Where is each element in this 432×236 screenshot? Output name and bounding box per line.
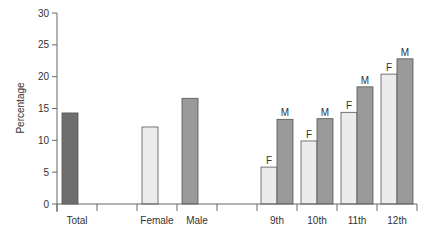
bar-male-male — [182, 98, 198, 204]
bar-chart: 051015202530 FMFMFMFM TotalFemaleMale9th… — [0, 0, 432, 236]
y-tick-label: 5 — [43, 167, 49, 178]
x-tick-label: 12th — [387, 215, 406, 226]
bar-9th-male — [277, 119, 293, 204]
x-tick-label: 11th — [348, 215, 367, 226]
bar-11th-male — [357, 87, 373, 204]
y-tick-label: 0 — [43, 199, 49, 210]
bar-total-total — [62, 113, 78, 204]
x-tick-label: Female — [140, 215, 174, 226]
bar-annotation: F — [306, 129, 312, 140]
bars: FMFMFMFM — [62, 47, 413, 204]
x-tick-label: Male — [186, 215, 208, 226]
bar-annotation: M — [281, 107, 289, 118]
y-axis-label: Percentage — [15, 82, 26, 134]
y-tick-label: 15 — [38, 103, 50, 114]
y-tick-label: 10 — [38, 135, 50, 146]
x-axis: TotalFemaleMale9th10th11th12th — [57, 204, 417, 226]
bar-12th-female — [381, 74, 397, 204]
y-tick-label: 30 — [38, 8, 50, 19]
bar-9th-female — [261, 167, 277, 204]
bar-annotation: F — [346, 100, 352, 111]
y-tick-label: 20 — [38, 71, 50, 82]
bar-female-female — [142, 127, 158, 204]
x-tick-label: 9th — [270, 215, 284, 226]
bar-annotation: M — [361, 75, 369, 86]
bar-10th-male — [317, 119, 333, 204]
y-tick-label: 25 — [38, 39, 50, 50]
bar-annotation: M — [401, 47, 409, 58]
x-tick-label: 10th — [307, 215, 326, 226]
bar-10th-female — [301, 141, 317, 204]
bar-annotation: F — [386, 62, 392, 73]
bar-12th-male — [397, 59, 413, 204]
bar-11th-female — [341, 112, 357, 204]
bar-annotation: M — [321, 107, 329, 118]
y-axis: 051015202530 — [38, 8, 57, 213]
x-tick-label: Total — [66, 215, 87, 226]
bar-annotation: F — [266, 155, 272, 166]
